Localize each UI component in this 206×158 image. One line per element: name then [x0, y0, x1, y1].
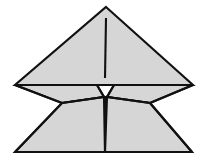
upper-center-crease-line — [105, 18, 106, 78]
origami-figure-container: Folded paper figure Line drawing of a fo… — [0, 0, 206, 158]
folded-paper-diagram: Folded paper figure Line drawing of a fo… — [0, 0, 206, 158]
